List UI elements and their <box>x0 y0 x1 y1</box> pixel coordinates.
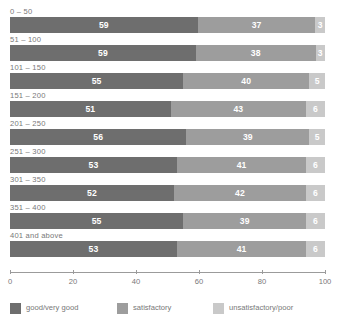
x-axis-tick-label: 20 <box>69 277 77 286</box>
segment-value: 40 <box>241 77 251 86</box>
category-label: 151 – 200 <box>10 90 46 101</box>
bar-segment: 39 <box>183 213 306 229</box>
x-axis-tick-label: 80 <box>258 277 266 286</box>
chart-row: 201 – 25056395 <box>10 118 325 146</box>
bar-segment: 37 <box>198 17 316 33</box>
segment-value: 53 <box>89 161 99 170</box>
segment-value: 3 <box>318 49 323 58</box>
x-axis-tick <box>136 270 137 274</box>
legend-label: good/very good <box>26 304 78 312</box>
stacked-bar: 56395 <box>10 129 325 145</box>
bar-segment: 3 <box>315 17 325 33</box>
category-label: 351 – 400 <box>10 202 46 213</box>
segment-value: 6 <box>313 245 318 254</box>
legend-swatch-icon <box>117 303 128 314</box>
stacked-bar: 59373 <box>10 17 325 33</box>
segment-value: 41 <box>237 245 247 254</box>
category-label: 0 – 50 <box>10 6 32 17</box>
segment-value: 5 <box>315 133 320 142</box>
x-axis-tick-label: 100 <box>319 277 332 286</box>
x-axis-tick <box>262 270 263 274</box>
bar-segment: 41 <box>177 241 306 257</box>
bar-segment: 43 <box>171 101 306 117</box>
bar-segment: 6 <box>306 185 325 201</box>
bar-segment: 38 <box>196 45 316 61</box>
chart-row: 301 – 35052426 <box>10 174 325 202</box>
bar-segment: 53 <box>10 157 177 173</box>
category-label: 51 – 100 <box>10 34 41 45</box>
segment-value: 42 <box>235 189 245 198</box>
stacked-bar: 52426 <box>10 185 325 201</box>
x-axis: 020406080100 <box>10 272 325 294</box>
chart-row: 101 – 15055405 <box>10 62 325 90</box>
chart-row: 401 and above53416 <box>10 230 325 258</box>
x-axis-tick <box>73 270 74 274</box>
chart-legend: good/very goodsatisfactoryunsatisfactory… <box>10 301 330 317</box>
category-label: 401 and above <box>10 230 63 241</box>
segment-value: 6 <box>313 161 318 170</box>
category-label: 251 – 300 <box>10 146 46 157</box>
x-axis-tick <box>325 270 326 274</box>
stacked-bar: 59383 <box>10 45 325 61</box>
segment-value: 51 <box>85 105 95 114</box>
chart-row: 351 – 40055396 <box>10 202 325 230</box>
x-axis-tick-label: 0 <box>8 277 12 286</box>
bar-segment: 55 <box>10 213 183 229</box>
bar-segment: 5 <box>309 73 325 89</box>
x-axis-tick <box>10 270 11 274</box>
legend-item[interactable]: satisfactory <box>117 301 171 315</box>
segment-value: 59 <box>98 49 108 58</box>
segment-value: 3 <box>318 21 323 30</box>
segment-value: 6 <box>313 105 318 114</box>
bar-segment: 52 <box>10 185 174 201</box>
segment-value: 37 <box>252 21 262 30</box>
segment-value: 6 <box>313 189 318 198</box>
x-axis-tick-label: 60 <box>195 277 203 286</box>
x-axis-tick-label: 40 <box>132 277 140 286</box>
segment-value: 39 <box>240 217 250 226</box>
bar-segment: 40 <box>183 73 309 89</box>
stacked-bar: 55405 <box>10 73 325 89</box>
category-label: 301 – 350 <box>10 174 46 185</box>
stacked-bar-chart: 0 – 505937351 – 10059383101 – 1505540515… <box>0 0 337 325</box>
bar-segment: 59 <box>10 45 196 61</box>
segment-value: 59 <box>99 21 109 30</box>
legend-swatch-icon <box>213 303 224 314</box>
bar-segment: 59 <box>10 17 198 33</box>
bar-segment: 42 <box>174 185 306 201</box>
segment-value: 39 <box>243 133 253 142</box>
chart-row: 51 – 10059383 <box>10 34 325 62</box>
legend-item[interactable]: good/very good <box>10 301 78 315</box>
x-axis-tick <box>199 270 200 274</box>
category-label: 101 – 150 <box>10 62 46 73</box>
bar-segment: 51 <box>10 101 171 117</box>
bar-segment: 6 <box>306 241 325 257</box>
legend-item[interactable]: unsatisfactory/poor <box>213 301 293 315</box>
legend-label: unsatisfactory/poor <box>229 304 293 312</box>
segment-value: 5 <box>315 77 320 86</box>
category-label: 201 – 250 <box>10 118 46 129</box>
segment-value: 53 <box>89 245 99 254</box>
stacked-bar: 53416 <box>10 241 325 257</box>
stacked-bar: 51436 <box>10 101 325 117</box>
bar-segment: 55 <box>10 73 183 89</box>
bar-segment: 6 <box>306 157 325 173</box>
chart-row: 151 – 20051436 <box>10 90 325 118</box>
chart-row: 0 – 5059373 <box>10 6 325 34</box>
bar-segment: 6 <box>306 213 325 229</box>
plot-area: 0 – 505937351 – 10059383101 – 1505540515… <box>10 6 325 258</box>
segment-value: 41 <box>237 161 247 170</box>
segment-value: 56 <box>93 133 103 142</box>
stacked-bar: 53416 <box>10 157 325 173</box>
segment-value: 55 <box>92 217 102 226</box>
segment-value: 6 <box>313 217 318 226</box>
segment-value: 52 <box>87 189 97 198</box>
segment-value: 38 <box>251 49 261 58</box>
chart-row: 251 – 30053416 <box>10 146 325 174</box>
bar-segment: 53 <box>10 241 177 257</box>
x-axis-line <box>10 272 325 273</box>
bar-segment: 3 <box>316 45 325 61</box>
bar-segment: 39 <box>186 129 309 145</box>
bar-segment: 5 <box>309 129 325 145</box>
bar-segment: 41 <box>177 157 306 173</box>
